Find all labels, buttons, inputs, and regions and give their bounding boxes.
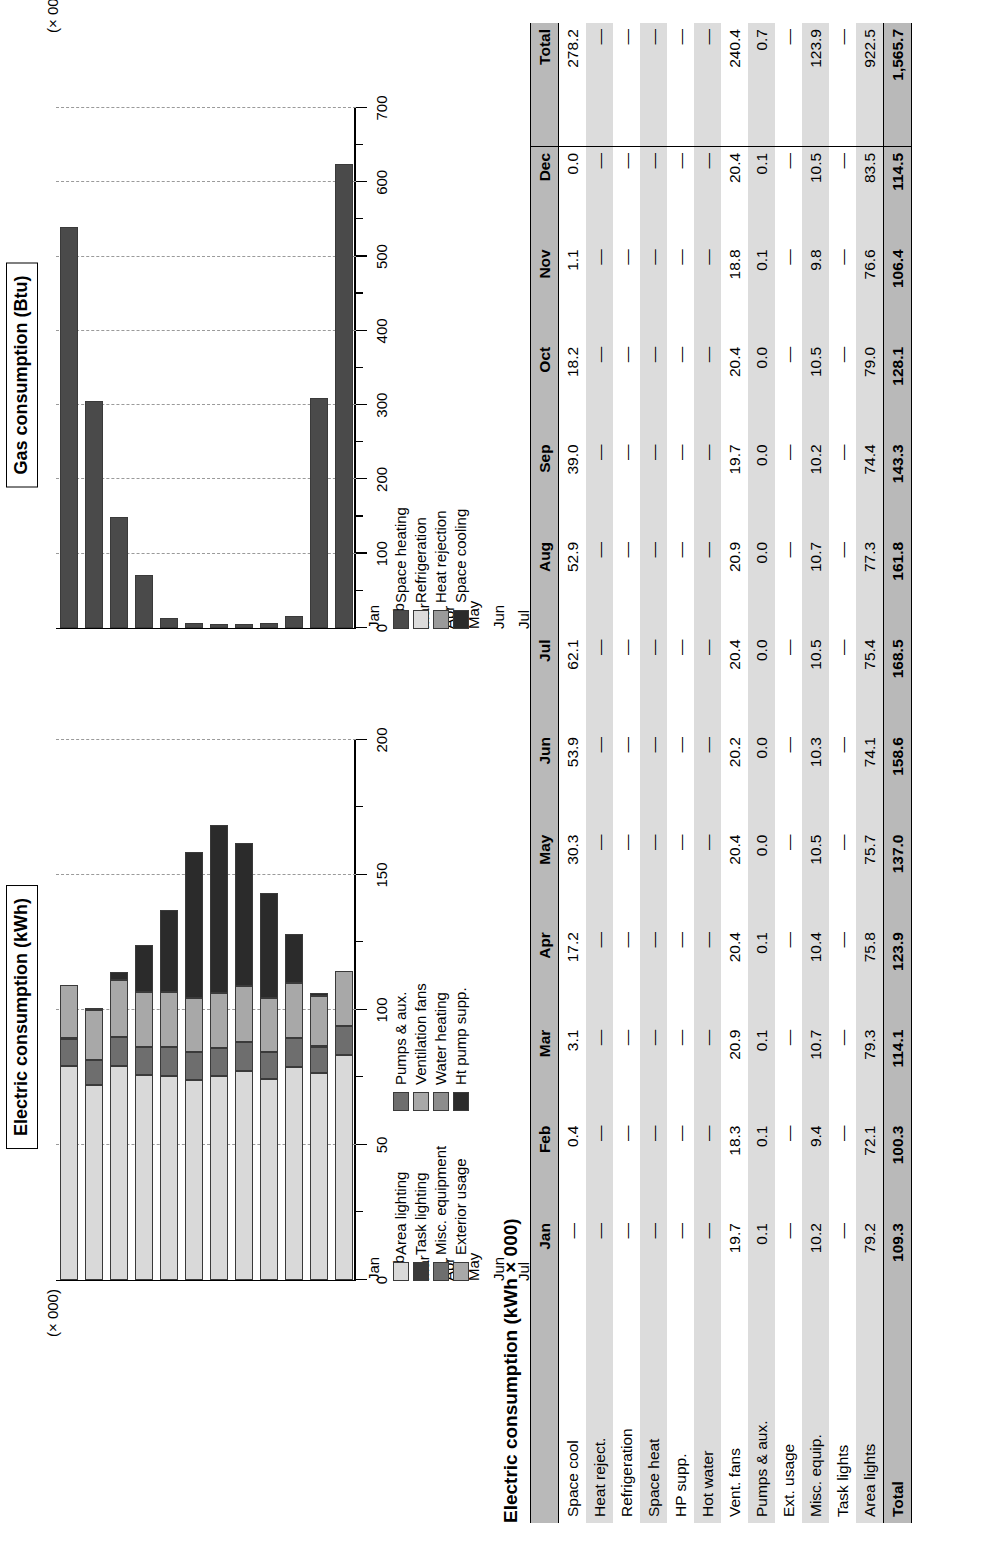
rotated-page-wrapper: Electric consumption (kWh) (× 000) 05010… [0, 0, 997, 1545]
table-cell: 79.2 [856, 1217, 884, 1315]
table-cell: 20.4 [721, 146, 748, 243]
legend-label: Misc. equipment [432, 1146, 449, 1255]
table-cell: — [829, 731, 856, 829]
table-cell: — [613, 829, 640, 927]
table-cell: — [694, 146, 721, 243]
table-cell: — [694, 926, 721, 1024]
table-cell: 83.5 [856, 146, 884, 243]
legend-entry: Area lighting [392, 1146, 409, 1281]
table-cell: — [667, 633, 694, 731]
axis-minor-tick [356, 441, 363, 442]
axis-tick [356, 330, 367, 331]
table-column-header: Mar [531, 1024, 559, 1120]
table-cell: 39.0 [559, 438, 587, 536]
table-cell: 0.0 [748, 536, 775, 634]
bar-segment [185, 1080, 203, 1280]
table-cell: — [640, 23, 667, 146]
table-row: Ext. usage————————————— [775, 23, 802, 1523]
table-cell: 3.1 [559, 1024, 587, 1120]
table-column-header: Jun [531, 731, 559, 829]
axis-tick [356, 255, 367, 256]
table-total-label: Total [884, 1315, 912, 1523]
table-cell: 10.3 [802, 731, 829, 829]
table-cell: 19.7 [721, 438, 748, 536]
table-cell: — [586, 1217, 613, 1315]
table-title: Electric consumption (kWh × 000) [500, 1218, 522, 1523]
table-cell: — [829, 536, 856, 634]
axis-minor-tick [356, 1076, 363, 1077]
table-cell: — [775, 23, 802, 146]
table-cell: 62.1 [559, 633, 587, 731]
legend-label: Space cooling [452, 509, 469, 603]
table-total-cell: 1,565.7 [884, 23, 912, 146]
table-cell: — [694, 1217, 721, 1315]
bar-segment [110, 517, 128, 628]
table-cell: 0.0 [559, 146, 587, 243]
axis-tick [356, 181, 367, 182]
table-cell: — [586, 829, 613, 927]
table-cell: 20.9 [721, 536, 748, 634]
gridline [56, 739, 356, 740]
bar-segment [285, 1038, 303, 1066]
table-cell: — [613, 1120, 640, 1218]
table-cell: — [775, 731, 802, 829]
axis-tick [356, 739, 367, 740]
legend-entry: Ht pump supp. [452, 983, 469, 1111]
bar-segment [310, 1073, 328, 1280]
gas-axis-units: (× 000,000) [44, 0, 61, 33]
table-total-cell: 114.1 [884, 1024, 912, 1120]
legend-entry: Task lighting [412, 1146, 429, 1281]
table-cell: — [640, 438, 667, 536]
table-cell: 0.0 [748, 731, 775, 829]
y-axis-tick-label: 200 [373, 727, 390, 752]
table-cell: — [640, 146, 667, 243]
table-cell: — [586, 1024, 613, 1120]
table-cell: 0.4 [559, 1120, 587, 1218]
table-cell: 18.8 [721, 243, 748, 341]
table-header-row: JanFebMarAprMayJunJulAugSepOctNovDecTota… [531, 23, 559, 1523]
bar-segment [135, 992, 153, 1047]
axis-tick [356, 404, 367, 405]
table-cell: — [640, 633, 667, 731]
electric-chart-title: Electric consumption (kWh) [6, 885, 38, 1149]
table-cell: — [694, 1120, 721, 1218]
axis-tick [356, 478, 367, 479]
electric-consumption-chart: Electric consumption (kWh) (× 000) 05010… [0, 697, 470, 1337]
table-column-header: Nov [531, 243, 559, 341]
gas-chart-title: Gas consumption (Btu) [6, 263, 38, 488]
y-axis-tick-label: 150 [373, 862, 390, 887]
table-cell: — [694, 23, 721, 146]
table-row-label: Misc. equip. [802, 1315, 829, 1523]
table-cell: — [829, 633, 856, 731]
bar-segment [135, 1047, 153, 1075]
electric-axis-units: (× 000) [44, 1289, 61, 1337]
legend-column: Space heatingRefrigerationHeat rejection… [392, 507, 472, 629]
table-cell: — [586, 146, 613, 243]
table-cell: — [829, 146, 856, 243]
bar-segment [285, 616, 303, 628]
bar-segment [160, 1047, 178, 1075]
table-cell: — [613, 146, 640, 243]
axis-minor-tick [356, 590, 363, 591]
table-cell: 10.7 [802, 1024, 829, 1120]
table-total-cell: 100.3 [884, 1120, 912, 1218]
table-cell: 18.3 [721, 1120, 748, 1218]
table-cell: 0.0 [748, 633, 775, 731]
legend-column: Area lightingTask lightingMisc. equipmen… [392, 1146, 472, 1281]
table-cell: — [613, 731, 640, 829]
bar-segment [85, 1085, 103, 1280]
legend-swatch [393, 1092, 409, 1111]
table-row-label: Space heat [640, 1315, 667, 1523]
table-row: Misc. equip.10.29.410.710.410.510.310.51… [802, 23, 829, 1523]
table-cell: 0.1 [748, 1024, 775, 1120]
table-column-header: Aug [531, 536, 559, 634]
table-row: Task lights————————————— [829, 23, 856, 1523]
electric-plot-area: 050100150200 [56, 740, 356, 1281]
bar-segment [135, 575, 153, 628]
legend-swatch [433, 1262, 449, 1281]
legend-label: Area lighting [392, 1172, 409, 1255]
table-cell: — [694, 341, 721, 439]
axis-tick [356, 874, 367, 875]
bar-segment [60, 985, 78, 1038]
table-row: Area lights79.272.179.375.875.774.175.47… [856, 23, 884, 1523]
